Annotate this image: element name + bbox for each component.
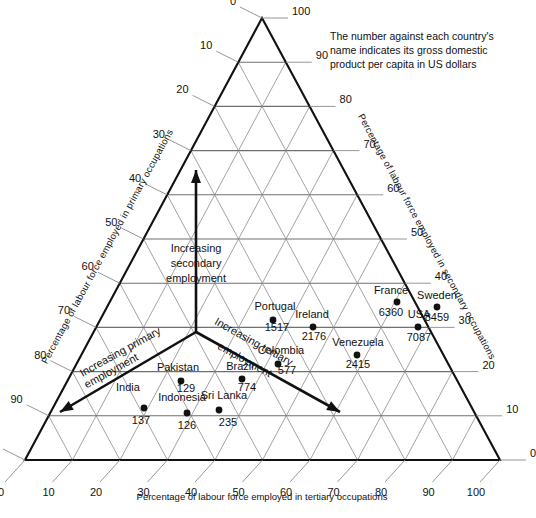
direction-arrows: IncreasingsecondaryemploymentIncreasing … — [60, 170, 340, 412]
data-point-value: 577 — [278, 364, 296, 376]
data-point[interactable]: India137 — [116, 381, 150, 426]
note-block: The number against each country's name i… — [330, 30, 494, 70]
data-point[interactable]: Sri Lanka235 — [201, 389, 248, 428]
tick-label-primary: 10 — [200, 39, 212, 51]
tick-label-secondary: 100 — [292, 5, 310, 17]
data-point-marker — [141, 405, 148, 412]
data-point-value: 137 — [132, 414, 150, 426]
data-point-value: 2176 — [302, 330, 326, 342]
tick-label-secondary: 10 — [506, 403, 518, 415]
data-point[interactable]: Indonesia126 — [158, 391, 207, 431]
tick-label-tertiary: 0 — [0, 486, 4, 498]
arrow-label-secondary-1: Increasing — [171, 242, 222, 254]
tick-label-primary: 20 — [176, 83, 188, 95]
note-line-2: name indicates its gross domestic — [330, 44, 488, 56]
data-point-label: Colombia — [258, 344, 305, 356]
data-point-marker — [415, 324, 422, 331]
bottom-axis-title: Percentage of labour force employed in t… — [137, 491, 388, 502]
data-point-value: 129 — [177, 382, 195, 394]
data-point[interactable]: Ireland2176 — [295, 308, 329, 342]
tick-label-secondary: 80 — [340, 93, 352, 105]
tick-label-tertiary: 90 — [422, 486, 434, 498]
tick-label-secondary: 0 — [530, 447, 536, 459]
tick-label-tertiary: 100 — [467, 486, 485, 498]
data-point-label: Brazil — [226, 360, 254, 372]
ternary-diagram-figure: 0100010901020802030703040604050505060406… — [0, 0, 536, 518]
data-point-value: 6360 — [379, 306, 403, 318]
data-point[interactable]: France6360 — [374, 284, 408, 318]
note-line-1: The number against each country's — [330, 30, 494, 42]
axis-ticks — [3, 7, 526, 482]
tick-label-tertiary: 10 — [42, 486, 54, 498]
data-point-label: France — [374, 284, 408, 296]
axis-tick-labels: 0100010901020802030703040604050505060406… — [0, 0, 536, 498]
data-point-label: Ireland — [295, 308, 329, 320]
data-point-label: Venezuela — [332, 336, 384, 348]
arrow-label-secondary-2: secondary — [171, 257, 222, 269]
note-line-3: product per capita in US dollars — [330, 58, 477, 70]
data-point[interactable]: Venezuela2415 — [332, 336, 384, 370]
data-point-value: 774 — [238, 381, 256, 393]
data-point-label: Sweden — [417, 289, 457, 301]
data-point-label: India — [116, 381, 141, 393]
grid-lines — [49, 62, 477, 460]
data-point-value: 7087 — [407, 331, 431, 343]
tick-label-primary: 90 — [10, 393, 22, 405]
data-point-marker — [434, 304, 441, 311]
data-point-value: 2415 — [346, 358, 370, 370]
arrow-label-secondary-3: employment — [166, 272, 226, 284]
tick-label-primary: 0 — [230, 0, 236, 7]
data-point-value: 235 — [219, 416, 237, 428]
tick-label-secondary: 90 — [316, 49, 328, 61]
data-point-marker — [184, 410, 191, 417]
data-point-label: Pakistan — [157, 361, 199, 373]
data-point-marker — [394, 299, 401, 306]
data-point-label: Portugal — [255, 300, 296, 312]
tick-label-tertiary: 20 — [90, 486, 102, 498]
data-point-label: USA — [408, 308, 431, 320]
ternary-chart-svg: 0100010901020802030703040604050505060406… — [0, 0, 536, 518]
data-point-value: 126 — [178, 419, 196, 431]
data-point[interactable]: Pakistan129 — [157, 361, 199, 394]
data-point-marker — [216, 407, 223, 414]
data-point-value: 1517 — [265, 321, 289, 333]
data-point[interactable]: Portugal1517 — [255, 300, 296, 333]
